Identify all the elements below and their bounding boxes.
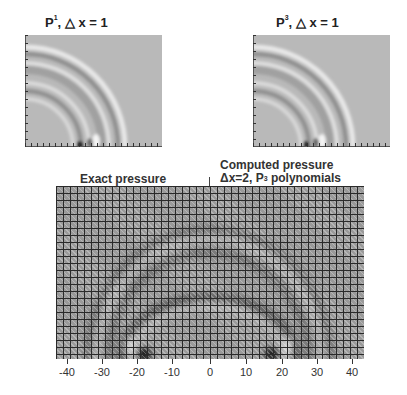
computed-pressure-label: Computed pressure Δx=2, P3 polynomials <box>220 159 341 185</box>
x-tick <box>137 359 138 364</box>
x-tick-label: 10 <box>240 366 252 378</box>
computed-label-line2: Δx=2, P3 polynomials <box>220 172 341 185</box>
x-tick <box>102 359 103 364</box>
x-tick <box>172 359 173 364</box>
mesh-grid <box>56 186 364 359</box>
pressure-plot-p1 <box>25 35 162 147</box>
y-ticks <box>253 35 256 147</box>
x-tick-label: -40 <box>59 366 75 378</box>
title-rest: , △ x = 1 <box>289 15 339 30</box>
x-tick <box>67 359 68 364</box>
title-base: P <box>45 15 54 30</box>
panel-title-p1: P1, △ x = 1 <box>45 15 108 30</box>
x-tick-label: -20 <box>129 366 145 378</box>
pressure-plot-p3 <box>253 35 390 147</box>
y-ticks <box>25 35 28 147</box>
x-tick-label: 40 <box>346 366 358 378</box>
x-tick-label: 0 <box>207 366 213 378</box>
title-base: P <box>276 15 285 30</box>
mesh-pressure-plot <box>56 186 364 359</box>
x-tick <box>317 359 318 364</box>
label-part: Δx=2, P <box>220 171 264 185</box>
x-tick <box>210 359 211 364</box>
label-part: polynomials <box>268 171 341 185</box>
x-tick <box>352 359 353 364</box>
exact-pressure-label: Exact pressure <box>80 172 166 186</box>
x-tick-label: 20 <box>276 366 288 378</box>
x-tick <box>246 359 247 364</box>
panel-title-p3: P3, △ x = 1 <box>276 15 339 30</box>
x-ticks <box>25 143 162 147</box>
x-ticks <box>253 143 390 147</box>
title-sup: 3 <box>285 14 289 21</box>
title-rest: , △ x = 1 <box>58 15 108 30</box>
x-tick-label: 30 <box>311 366 323 378</box>
x-tick-label: -30 <box>94 366 110 378</box>
title-sup: 1 <box>54 14 58 21</box>
x-tick <box>282 359 283 364</box>
x-tick-label: -10 <box>164 366 180 378</box>
